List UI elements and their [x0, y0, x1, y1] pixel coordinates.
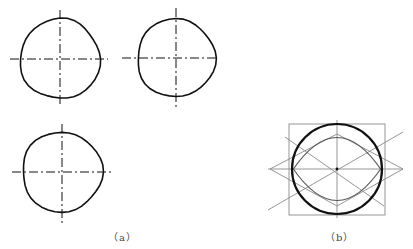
caption-b: （b） — [325, 229, 354, 244]
circle-sketch-1 — [10, 10, 108, 107]
center-point — [336, 168, 339, 171]
caption-a: （a） — [108, 229, 137, 244]
figure-canvas — [0, 0, 413, 249]
circle-outline — [21, 18, 101, 98]
circle-sketch-2 — [122, 8, 216, 108]
panel-a-circles — [10, 8, 216, 224]
panel-b-construction — [268, 120, 403, 218]
circle-sketch-3 — [12, 124, 111, 224]
